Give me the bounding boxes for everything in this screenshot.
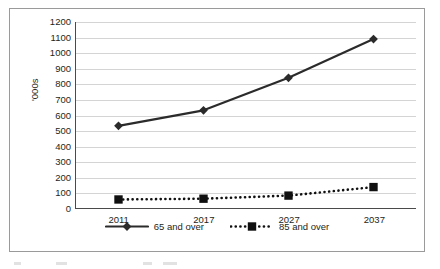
- legend-item-1[interactable]: 65 and over: [105, 221, 204, 232]
- square-marker-icon: [114, 195, 122, 203]
- y-axis-tick-label: 200: [55, 173, 71, 183]
- legend-label: 85 and over: [279, 222, 329, 232]
- y-axis-tick-label: 1100: [51, 33, 71, 43]
- y-axis-tick-label: 100: [55, 189, 71, 199]
- y-axis-tick-label: 0: [66, 204, 71, 214]
- chart-legend: 65 and over85 and over: [10, 221, 424, 232]
- square-marker-icon: [369, 183, 377, 191]
- chart-figure: '000s 0100200300400500600700800900100011…: [9, 8, 425, 252]
- y-axis-tick-label: 1000: [50, 48, 71, 58]
- diamond-marker-icon: [114, 121, 123, 130]
- diamond-marker-icon: [199, 106, 208, 115]
- legend-key-diamond-marker-icon: [105, 221, 149, 232]
- diamond-marker-icon: [369, 35, 378, 44]
- diamond-marker-icon: [284, 73, 293, 82]
- legend-key-square-marker-icon: [230, 221, 274, 232]
- scan-artifacts: [0, 258, 440, 269]
- series-plot: [76, 22, 416, 208]
- series-line-1: [119, 39, 374, 126]
- series-line-2: [119, 187, 374, 199]
- diamond-marker-icon: [122, 222, 131, 231]
- y-axis-tick-label: 800: [55, 80, 71, 90]
- square-marker-icon: [248, 222, 256, 230]
- square-marker-icon: [199, 195, 207, 203]
- legend-label: 65 and over: [154, 222, 204, 232]
- y-axis-tick-label: 1200: [50, 17, 71, 27]
- y-axis-title: '000s: [30, 79, 40, 101]
- plot-area: 0100200300400500600700800900100011001200…: [75, 22, 416, 209]
- legend-item-2[interactable]: 85 and over: [230, 221, 329, 232]
- y-axis-tick-label: 300: [55, 158, 71, 168]
- y-axis-tick-label: 500: [55, 126, 71, 136]
- y-axis-tick-label: 600: [55, 111, 71, 121]
- square-marker-icon: [284, 191, 292, 199]
- y-axis-tick-label: 900: [55, 64, 71, 74]
- y-axis-tick-label: 700: [55, 95, 71, 105]
- y-axis-tick-label: 400: [55, 142, 71, 152]
